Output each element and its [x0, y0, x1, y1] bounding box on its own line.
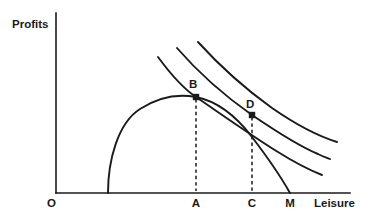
indifference-curve-1: [158, 57, 322, 175]
x-tick-label-a: A: [192, 197, 200, 209]
point-marker-B: [193, 94, 199, 100]
y-axis-title: Profits: [12, 18, 48, 30]
point-label-d: D: [246, 98, 254, 110]
x-tick-label-m: M: [285, 197, 295, 209]
x-axis-title: Leisure: [314, 197, 355, 209]
point-label-b: B: [189, 78, 197, 90]
point-marker-D: [249, 112, 255, 118]
profits-leisure-diagram: Profits Leisure O A C M B D: [0, 0, 375, 222]
figure-root: Profits Leisure O A C M B D: [0, 0, 375, 222]
indifference-curve-3: [198, 42, 337, 142]
x-tick-label-c: C: [248, 197, 256, 209]
origin-label: O: [47, 197, 56, 209]
profit-possibility-curve: [108, 96, 290, 193]
